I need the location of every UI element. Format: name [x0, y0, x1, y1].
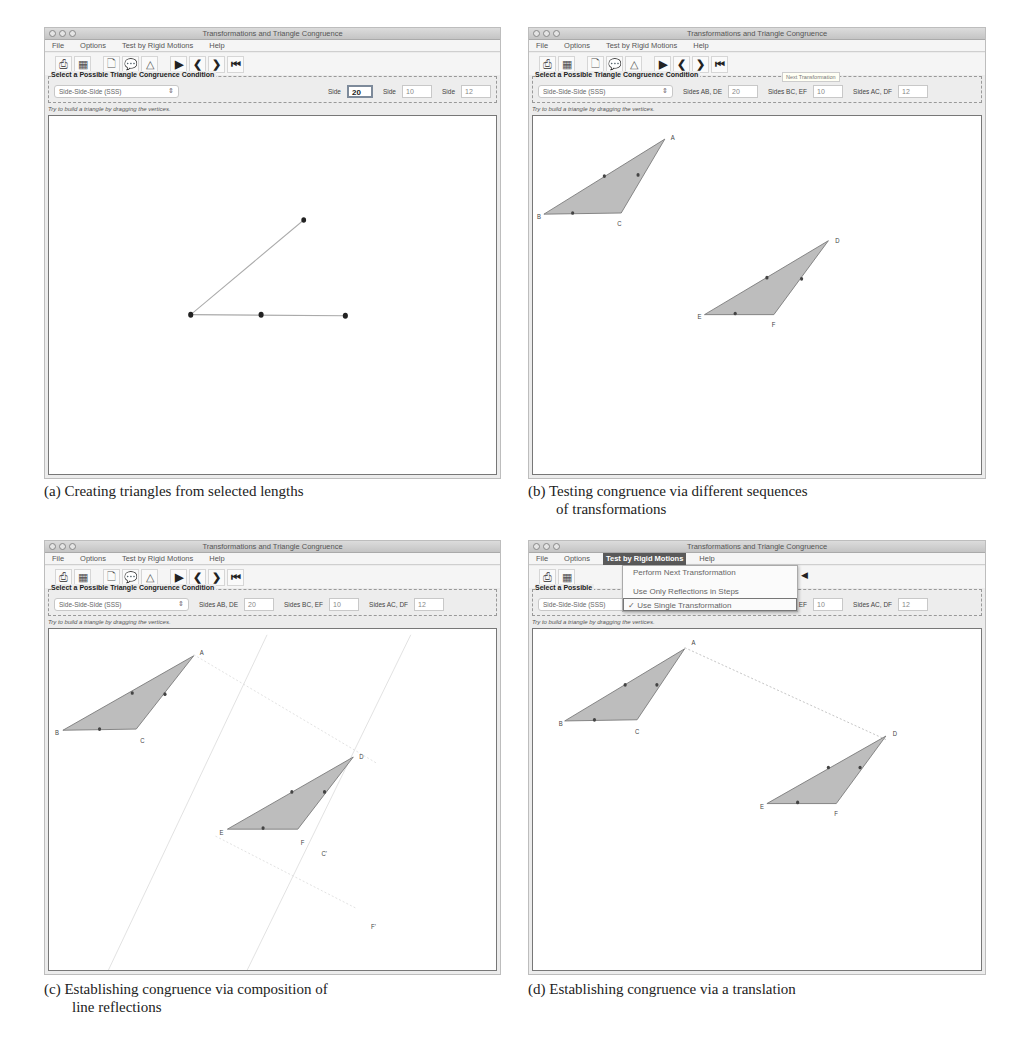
- sides-bc-ef-input[interactable]: 10: [813, 85, 843, 98]
- sides-ab-de-input[interactable]: 20: [728, 85, 758, 98]
- svg-text:C: C: [635, 727, 640, 735]
- menu-file[interactable]: File: [533, 40, 551, 52]
- sides-bc-ef-label: Sides BC, EF: [284, 601, 323, 608]
- menu-item-use-single-transformation[interactable]: ✓ Use Single Transformation: [623, 598, 797, 611]
- menu-test-by-rigid-motions[interactable]: Test by Rigid Motions: [603, 40, 680, 52]
- menu-options[interactable]: Options: [561, 553, 593, 565]
- step-back-icon[interactable]: ❮: [189, 569, 206, 586]
- side-3-label: Side: [442, 88, 455, 95]
- vertex-handle[interactable]: [343, 313, 348, 319]
- print-icon[interactable]: ⎙: [539, 56, 556, 73]
- menu-options[interactable]: Options: [77, 553, 109, 565]
- status-text: Try to build a triangle by dragging the …: [48, 106, 171, 112]
- condition-select[interactable]: Side-Side-Side (SSS)⇕: [54, 85, 179, 98]
- select-stepper-icon: ⇕: [178, 600, 184, 608]
- status-text: Try to build a triangle by dragging the …: [48, 619, 171, 625]
- menu-help[interactable]: Help: [206, 40, 227, 52]
- side-2-input[interactable]: 10: [402, 85, 432, 98]
- condition-select[interactable]: Side-Side-Side (SSS)⇕: [54, 598, 189, 611]
- grid-icon[interactable]: ▦: [558, 56, 575, 73]
- speech-bubble-icon[interactable]: 💬: [606, 56, 623, 73]
- triangle-icon[interactable]: △: [625, 56, 642, 73]
- congruence-condition-group: Select a Possible Triangle Congruence Co…: [48, 589, 497, 616]
- rewind-icon[interactable]: ⏮: [711, 56, 728, 73]
- step-back-icon[interactable]: ❮: [673, 56, 690, 73]
- print-icon[interactable]: ⎙: [55, 56, 72, 73]
- triangle-abc[interactable]: [63, 656, 194, 730]
- canvas-figure: A B C D E F: [533, 116, 981, 474]
- menu-help[interactable]: Help: [690, 40, 711, 52]
- vertex-handle[interactable]: [259, 312, 264, 318]
- triangle-icon[interactable]: △: [141, 569, 158, 586]
- triangle-def[interactable]: [227, 757, 353, 829]
- svg-text:A: A: [692, 639, 697, 647]
- side-2-label: Side: [383, 88, 396, 95]
- new-page-icon[interactable]: 🗋: [103, 56, 120, 73]
- drawing-canvas[interactable]: A B C D E F: [532, 115, 982, 475]
- drawing-canvas[interactable]: A B C D E F C' F': [48, 628, 497, 971]
- svg-text:F: F: [301, 839, 305, 847]
- step-forward-icon[interactable]: ❯: [208, 56, 225, 73]
- menu-test-by-rigid-motions[interactable]: Test by Rigid Motions: [603, 553, 686, 565]
- menu-file[interactable]: File: [49, 553, 67, 565]
- rewind-icon[interactable]: ⏮: [227, 569, 244, 586]
- menu-file[interactable]: File: [49, 40, 67, 52]
- menu-options[interactable]: Options: [77, 40, 109, 52]
- play-icon[interactable]: ▶: [170, 56, 187, 73]
- grid-icon[interactable]: ▦: [74, 56, 91, 73]
- sides-ab-de-input[interactable]: 20: [244, 598, 274, 611]
- side-3-input[interactable]: 12: [461, 85, 491, 98]
- menu-bar: File Options Test by Rigid Motions Help: [45, 553, 500, 565]
- grid-icon[interactable]: ▦: [558, 569, 575, 586]
- menu-test-by-rigid-motions[interactable]: Test by Rigid Motions: [119, 553, 196, 565]
- drawing-canvas[interactable]: [48, 115, 497, 475]
- vertex-handle[interactable]: [188, 312, 193, 318]
- sides-ac-df-input[interactable]: 12: [898, 598, 928, 611]
- new-page-icon[interactable]: 🗋: [587, 56, 604, 73]
- side-1-input[interactable]: 20: [347, 85, 373, 98]
- menu-item-use-only-reflections[interactable]: Use Only Reflections in Steps: [623, 585, 797, 598]
- svg-text:E: E: [760, 803, 765, 811]
- sides-bc-ef-input[interactable]: 10: [813, 598, 843, 611]
- play-icon[interactable]: ▶: [170, 569, 187, 586]
- svg-text:C: C: [140, 737, 145, 745]
- svg-text:F: F: [772, 321, 776, 329]
- step-forward-icon[interactable]: ❯: [208, 569, 225, 586]
- menu-item-perform-next-transformation[interactable]: Perform Next Transformation: [623, 566, 797, 579]
- condition-select[interactable]: Side-Side-Side (SSS)⇕: [538, 85, 673, 98]
- window-title: Transformations and Triangle Congruence: [529, 28, 985, 40]
- select-stepper-icon: ⇕: [168, 87, 174, 95]
- menu-options[interactable]: Options: [561, 40, 593, 52]
- triangle-icon[interactable]: △: [141, 56, 158, 73]
- step-forward-icon[interactable]: ❯: [692, 56, 709, 73]
- rewind-icon[interactable]: ⏮: [227, 56, 244, 73]
- step-back-icon[interactable]: ❮: [189, 56, 206, 73]
- speech-bubble-icon[interactable]: 💬: [122, 569, 139, 586]
- print-icon[interactable]: ⎙: [55, 569, 72, 586]
- sides-ac-df-label: Sides AC, DF: [369, 601, 408, 608]
- title-bar[interactable]: Transformations and Triangle Congruence: [45, 541, 500, 553]
- menu-help[interactable]: Help: [696, 553, 717, 565]
- sides-ac-df-input[interactable]: 12: [898, 85, 928, 98]
- menu-help[interactable]: Help: [206, 553, 227, 565]
- group-title: Select a Possible Triangle Congruence Co…: [51, 584, 216, 591]
- print-icon[interactable]: ⎙: [539, 569, 556, 586]
- title-bar[interactable]: Transformations and Triangle Congruence: [529, 28, 985, 40]
- play-icon[interactable]: ▶: [654, 56, 671, 73]
- grid-icon[interactable]: ▦: [74, 569, 91, 586]
- sides-bc-ef-input[interactable]: 10: [329, 598, 359, 611]
- test-by-rigid-motions-menu: Perform Next Transformation Use Only Ref…: [622, 565, 798, 612]
- title-bar[interactable]: Transformations and Triangle Congruence: [529, 541, 985, 553]
- caption-d: (d) Establishing congruence via a transl…: [528, 980, 796, 998]
- vertex-handle[interactable]: [301, 217, 306, 223]
- speech-bubble-icon[interactable]: 💬: [122, 56, 139, 73]
- sides-ac-df-input[interactable]: 12: [414, 598, 444, 611]
- new-page-icon[interactable]: 🗋: [103, 569, 120, 586]
- drawing-canvas[interactable]: A B C D E F: [532, 628, 982, 971]
- group-title: Select a Possible Triangle Congruence Co…: [51, 71, 216, 78]
- menu-file[interactable]: File: [533, 553, 551, 565]
- triangle-def[interactable]: [767, 736, 886, 804]
- menu-test-by-rigid-motions[interactable]: Test by Rigid Motions: [119, 40, 196, 52]
- app-window-b: Transformations and Triangle Congruence …: [528, 27, 986, 479]
- title-bar[interactable]: Transformations and Triangle Congruence: [45, 28, 500, 40]
